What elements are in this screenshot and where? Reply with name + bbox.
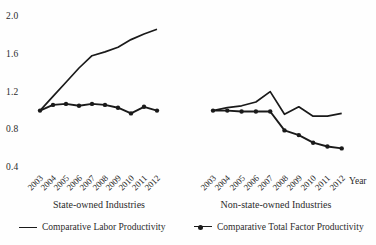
data-point-marker [268, 109, 272, 113]
data-point-marker [239, 109, 243, 113]
data-point-marker [155, 108, 159, 112]
data-point-marker [38, 108, 42, 112]
legend-item-total-factor-productivity: Comparative Total Factor Productivity [194, 222, 364, 232]
legend-label: Comparative Labor Productivity [42, 222, 165, 232]
data-point-marker [77, 104, 81, 108]
data-point-marker [64, 102, 68, 106]
data-point-marker [90, 102, 94, 106]
y-tick-label: 0.4 [6, 161, 26, 173]
dot-line-swatch [194, 224, 212, 230]
data-point-marker [211, 108, 215, 112]
data-point-marker [297, 133, 301, 137]
data-point-marker [254, 109, 258, 113]
panel-caption-non-state-owned: Non-state-owned Industries [205, 199, 347, 210]
y-tick-label: 2.0 [6, 10, 26, 22]
series-line-1-0 [213, 92, 342, 117]
data-point-marker [311, 141, 315, 145]
y-tick-label: 1.6 [6, 48, 26, 60]
data-point-marker [51, 103, 55, 107]
legend-item-labor-productivity: Comparative Labor Productivity [19, 222, 165, 232]
data-point-marker [282, 128, 286, 132]
series-line-0-1 [40, 104, 157, 114]
data-point-marker [116, 106, 120, 110]
data-point-marker [129, 111, 133, 115]
series-line-0-0 [40, 29, 157, 110]
productivity-line-chart: 2.01.61.20.80.4 200320042005200620072008… [0, 0, 376, 245]
y-tick-label: 0.8 [6, 123, 26, 135]
data-point-marker [340, 146, 344, 150]
solid-line-swatch [19, 227, 37, 228]
panel-caption-state-owned: State-owned Industries [40, 199, 158, 210]
legend-label: Comparative Total Factor Productivity [217, 222, 364, 232]
data-point-marker [142, 105, 146, 109]
data-point-marker [103, 103, 107, 107]
data-point-marker [225, 108, 229, 112]
y-tick-label: 1.2 [6, 86, 26, 98]
data-point-marker [325, 144, 329, 148]
x-axis-title: Year [349, 176, 367, 186]
